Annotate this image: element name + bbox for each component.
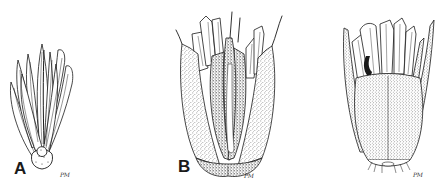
figure-a-involucre xyxy=(6,44,78,174)
panel-label-a: A xyxy=(14,160,26,177)
figure-c-involucre xyxy=(340,12,440,177)
involucre-c-drawing xyxy=(340,12,440,177)
artist-signature-b: PM xyxy=(244,173,254,179)
botanical-plate: A PM xyxy=(0,0,445,189)
involucre-b-drawing xyxy=(168,8,288,180)
artist-signature-a: PM xyxy=(60,172,70,178)
involucre-a-drawing xyxy=(6,44,78,174)
figure-b-involucre xyxy=(168,8,288,180)
panel-label-b: B xyxy=(178,158,190,175)
artist-signature-c: PM xyxy=(413,172,423,178)
